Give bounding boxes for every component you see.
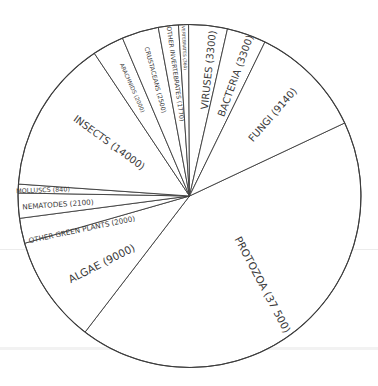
pie-slices bbox=[18, 24, 361, 367]
pie-chart: PROTOZOA (37 500)ALGAE (9000)OTHER GREEN… bbox=[0, 0, 378, 386]
